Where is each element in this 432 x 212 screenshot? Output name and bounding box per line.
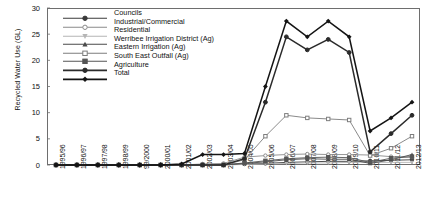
legend-marker-icon <box>62 52 108 61</box>
recycled-water-use-line-chart: Recycled Water Use (GL) 051015202530 199… <box>0 0 432 212</box>
legend-item-total[interactable]: Total <box>62 69 214 78</box>
legend-marker-icon <box>62 35 108 44</box>
legend-marker-icon <box>62 9 108 18</box>
legend-marker-icon <box>62 69 108 78</box>
legend-marker-icon <box>62 43 108 52</box>
legend-item-agriculture[interactable]: Agriculture <box>62 61 214 70</box>
legend-marker-icon <box>62 26 108 35</box>
chart-legend: CouncilsIndustrial/CommercialResidential… <box>62 9 214 78</box>
legend-marker-icon <box>62 61 108 70</box>
legend-item-label: Total <box>114 69 129 78</box>
series-eastern-irrigation-ag <box>54 114 413 167</box>
legend-marker-icon <box>62 18 108 27</box>
